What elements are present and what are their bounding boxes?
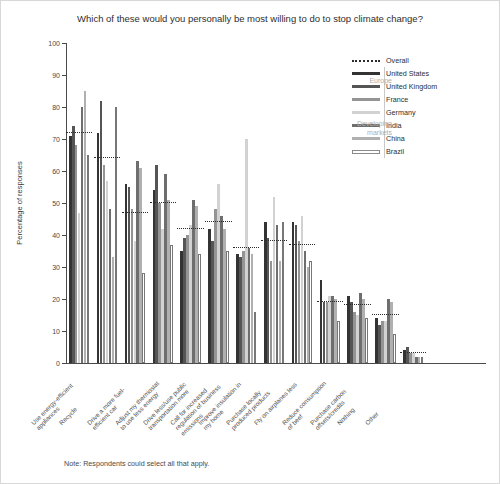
legend-label: Germany bbox=[386, 108, 416, 117]
bar bbox=[142, 273, 145, 363]
bar bbox=[309, 261, 312, 363]
chart-title: Which of these would you personally be m… bbox=[70, 12, 430, 25]
legend: OverallUnited StatesUnited KingdomFrance… bbox=[352, 54, 492, 158]
overall-marker bbox=[94, 157, 120, 158]
bar-group bbox=[320, 43, 348, 363]
bar bbox=[254, 312, 257, 363]
y-tick bbox=[62, 139, 66, 140]
bar-group bbox=[292, 43, 320, 363]
legend-swatch bbox=[352, 150, 380, 154]
legend-swatch bbox=[352, 60, 380, 62]
bar bbox=[115, 107, 118, 363]
bar bbox=[226, 251, 229, 363]
bar bbox=[198, 254, 201, 363]
bar-group bbox=[97, 43, 125, 363]
overall-marker bbox=[150, 202, 176, 203]
y-tick-label: 10 bbox=[52, 328, 60, 335]
chart-note: Note: Respondents could select all that … bbox=[64, 459, 209, 468]
legend-swatch bbox=[352, 98, 380, 101]
bar-group bbox=[180, 43, 208, 363]
legend-label: France bbox=[386, 95, 408, 104]
overall-marker bbox=[400, 352, 426, 353]
x-axis-line bbox=[66, 363, 486, 364]
legend-label: United Kingdom bbox=[386, 82, 437, 91]
overall-marker bbox=[261, 240, 287, 241]
y-tick-label: 70 bbox=[52, 136, 60, 143]
overall-marker bbox=[372, 314, 398, 315]
legend-group-developing: Developing markets bbox=[334, 120, 392, 137]
y-tick-label: 20 bbox=[52, 296, 60, 303]
y-tick bbox=[62, 331, 66, 332]
y-tick-label: 90 bbox=[52, 72, 60, 79]
y-tick bbox=[62, 171, 66, 172]
overall-marker bbox=[317, 301, 343, 302]
legend-item[interactable]: Germany bbox=[352, 106, 492, 119]
legend-label: Brazil bbox=[386, 147, 404, 156]
legend-swatch bbox=[352, 111, 380, 114]
bar-group bbox=[153, 43, 181, 363]
bar-group bbox=[264, 43, 292, 363]
overall-marker bbox=[122, 212, 148, 213]
y-tick-label: 30 bbox=[52, 264, 60, 271]
y-tick bbox=[62, 267, 66, 268]
overall-marker bbox=[66, 132, 92, 133]
y-tick bbox=[62, 107, 66, 108]
y-tick-label: 0 bbox=[56, 360, 60, 367]
bar-group bbox=[69, 43, 97, 363]
legend-item[interactable]: Overall bbox=[352, 54, 492, 67]
legend-swatch bbox=[352, 137, 380, 140]
legend-bracket-europe bbox=[384, 67, 385, 119]
legend-rows: OverallUnited StatesUnited KingdomFrance… bbox=[352, 54, 492, 158]
overall-marker bbox=[177, 228, 203, 229]
bar bbox=[393, 334, 396, 363]
bar bbox=[282, 222, 285, 363]
overall-marker bbox=[344, 304, 370, 305]
legend-group-europe: Europe bbox=[334, 77, 392, 86]
overall-marker bbox=[205, 221, 231, 222]
bar bbox=[365, 318, 368, 363]
y-tick-label: 100 bbox=[48, 40, 60, 47]
overall-marker bbox=[289, 244, 315, 245]
y-tick bbox=[62, 363, 66, 364]
y-tick bbox=[62, 235, 66, 236]
y-tick-label: 80 bbox=[52, 104, 60, 111]
y-tick-label: 50 bbox=[52, 200, 60, 207]
bar bbox=[421, 357, 424, 363]
bar-group bbox=[208, 43, 236, 363]
legend-item[interactable]: France bbox=[352, 93, 492, 106]
bar bbox=[337, 321, 340, 363]
overall-marker bbox=[233, 247, 259, 248]
y-tick bbox=[62, 75, 66, 76]
y-tick bbox=[62, 203, 66, 204]
legend-label: Overall bbox=[386, 56, 409, 65]
legend-item[interactable]: Brazil bbox=[352, 145, 492, 158]
y-tick bbox=[62, 43, 66, 44]
y-tick-label: 60 bbox=[52, 168, 60, 175]
y-tick-label: 40 bbox=[52, 232, 60, 239]
bar bbox=[87, 155, 90, 363]
bar bbox=[170, 245, 173, 363]
y-tick bbox=[62, 299, 66, 300]
bar-group bbox=[236, 43, 264, 363]
y-axis-title: Percentage of responses bbox=[15, 161, 24, 244]
legend-label: United States bbox=[386, 69, 429, 78]
bar-group bbox=[125, 43, 153, 363]
legend-swatch bbox=[352, 72, 380, 75]
